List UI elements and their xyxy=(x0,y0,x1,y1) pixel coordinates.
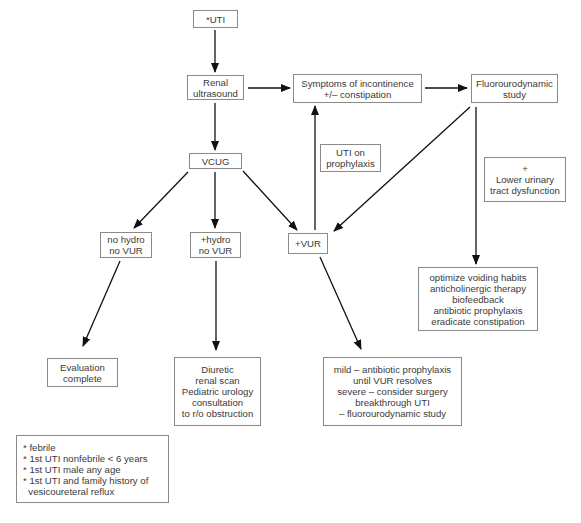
node-symptoms: Symptoms of incontinence +/– constipatio… xyxy=(293,74,422,103)
footnote-line: * 1st UTI male any age xyxy=(23,464,121,475)
node-evaluation-complete: Evaluation complete xyxy=(47,358,118,387)
node-line: renal scan xyxy=(195,375,239,386)
node-line: until VUR resolves xyxy=(353,375,432,386)
node-vur-management: mild – antibiotic prophylaxis until VUR … xyxy=(323,357,462,426)
arrow-vcug-to-plus-vur xyxy=(243,171,297,230)
node-line: VCUG xyxy=(202,156,230,167)
node-line: Pediatric urology xyxy=(182,386,253,397)
footnote-box: * febrile * 1st UTI nonfebrile < 6 years… xyxy=(16,435,169,503)
node-line: no VUR xyxy=(199,245,233,256)
node-plus-hydro: +hydro no VUR xyxy=(190,232,241,258)
node-no-hydro: no hydro no VUR xyxy=(100,232,152,258)
node-line: prophylaxis xyxy=(326,158,375,169)
node-renal-ultrasound: Renal ultrasound xyxy=(187,75,244,100)
node-line: +VUR xyxy=(295,238,321,249)
node-line: mild – antibiotic prophylaxis xyxy=(334,364,451,375)
node-line: tract dysfunction xyxy=(490,185,560,196)
node-lower-urinary: + Lower urinary tract dysfunction xyxy=(484,157,566,202)
node-line: Diuretic xyxy=(201,364,234,375)
arrow-no-hydro-to-eval xyxy=(83,261,120,346)
node-line: +/– constipation xyxy=(324,89,391,100)
node-line: biofeedback xyxy=(452,294,504,305)
node-uti: *UTI xyxy=(193,10,238,28)
node-uti-on-prophylaxis: UTI on prophylaxis xyxy=(320,144,381,172)
footnote-line: * 1st UTI nonfebrile < 6 years xyxy=(23,453,148,464)
node-line: Lower urinary xyxy=(496,174,554,185)
node-line: breakthrough UTI xyxy=(355,397,430,408)
node-vcug: VCUG xyxy=(189,153,242,169)
node-line: UTI on xyxy=(336,147,365,158)
node-line: ultrasound xyxy=(193,88,238,99)
node-line: eradicate constipation xyxy=(431,316,524,327)
node-line: optimize voiding habits xyxy=(429,272,526,283)
node-line: consultation xyxy=(192,397,243,408)
node-line: Symptoms of incontinence xyxy=(301,78,414,89)
node-line: severe – consider surgery xyxy=(337,386,447,397)
arrow-vur-to-mild xyxy=(320,257,361,349)
footnote-line: * 1st UTI and family history of xyxy=(23,475,148,486)
footnote-line: vesicoureteral reflux xyxy=(23,486,114,497)
node-plus-vur: +VUR xyxy=(288,233,328,254)
node-line: no VUR xyxy=(109,245,143,256)
node-line: + xyxy=(522,163,528,174)
node-line: study xyxy=(503,89,526,100)
node-line: complete xyxy=(63,373,102,384)
arrow-vcug-to-no-hydro xyxy=(134,172,188,228)
node-line: to r/o obstruction xyxy=(182,408,253,419)
node-line: Fluorourodynamic xyxy=(476,78,553,89)
node-line: antibiotic prophylaxis xyxy=(433,305,522,316)
node-optimize: optimize voiding habits anticholinergic … xyxy=(418,267,538,331)
node-uti-line: *UTI xyxy=(206,14,225,25)
node-fluorourodynamic: Fluorourodynamic study xyxy=(471,74,558,103)
node-line: Renal xyxy=(203,77,228,88)
node-line: anticholinergic therapy xyxy=(430,283,526,294)
node-line: Evaluation xyxy=(60,362,105,373)
node-line: – fluorourodynamic study xyxy=(339,408,446,419)
footnote-line: * febrile xyxy=(23,442,56,453)
node-line: no hydro xyxy=(107,234,144,245)
node-line: +hydro xyxy=(201,234,231,245)
node-diuretic: Diuretic renal scan Pediatric urology co… xyxy=(174,357,261,426)
